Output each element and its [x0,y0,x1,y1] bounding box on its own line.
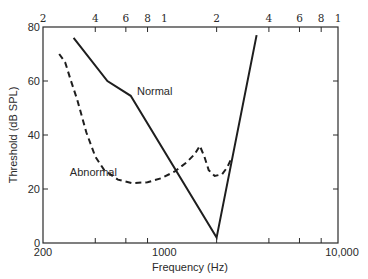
top-tick-label: 4 [92,12,99,24]
top-tick-label: 2 [213,12,220,24]
y-tick-label: 0 [34,237,40,249]
y-tick-label: 20 [28,183,40,195]
top-tick-label: 8 [318,12,325,24]
ticks [43,27,338,243]
top-tick-labels: 2468124681 [40,12,342,24]
series-lines [59,35,256,238]
x-axis-title: Frequency (Hz) [152,261,228,273]
axes-frame [43,27,338,243]
top-tick-label: 1 [335,12,342,24]
plot-frame [43,27,338,243]
series-line-normal [74,35,257,238]
top-tick-label: 2 [40,12,47,24]
bottom-tick-label: 1000 [152,246,176,258]
bottom-tick-labels: 200100010,000 [34,246,359,258]
top-tick-label: 4 [266,12,273,24]
series-label-abnormal: Abnormal [70,166,117,178]
top-tick-label: 1 [161,12,168,24]
y-tick-label: 80 [28,21,40,33]
top-tick-label: 6 [123,12,130,24]
series-label-normal: Normal [137,85,172,97]
top-tick-label: 6 [296,12,303,24]
y-tick-labels: 020406080 [28,21,40,249]
top-tick-label: 8 [144,12,151,24]
y-tick-label: 40 [28,129,40,141]
threshold-chart: 2468124681 200100010,000 020406080 Norma… [0,0,368,279]
bottom-tick-label: 10,000 [325,246,359,258]
y-tick-label: 60 [28,75,40,87]
y-axis-title: Threshold (dB SPL) [7,87,19,184]
